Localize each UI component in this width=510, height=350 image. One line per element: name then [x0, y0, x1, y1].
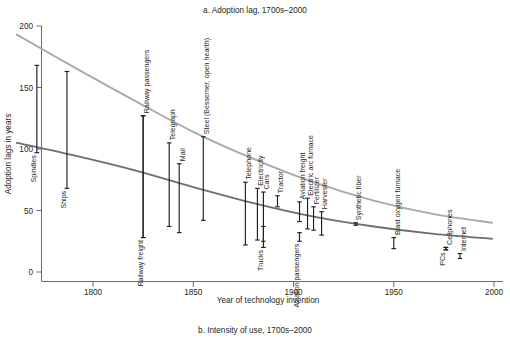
- data-point-label: Trucks: [257, 249, 265, 270]
- data-point-label: Internet: [460, 227, 468, 251]
- data-point: Harvester: [319, 178, 329, 235]
- data-point-label: Cellphones: [446, 209, 454, 245]
- data-point-label: Harvester: [321, 178, 329, 209]
- data-point: Mail: [177, 148, 187, 233]
- data-point-label: Spindles: [30, 155, 38, 183]
- data-point-label: Mail: [179, 148, 187, 161]
- x-tick-label: 1850: [184, 288, 203, 297]
- data-point: Fertilizer: [311, 176, 321, 230]
- data-point: Telegraph: [167, 109, 177, 226]
- data-point-label: Ships: [60, 190, 68, 208]
- data-point-label: Telephone: [245, 147, 253, 180]
- figure-container: a. Adoption lag, 1700s–2000 050100150200…: [0, 0, 510, 350]
- data-point-label: Cars: [263, 174, 271, 189]
- x-tick-label: 1800: [84, 288, 103, 297]
- x-tick-label: 1950: [385, 288, 404, 297]
- data-point: Blast oxygen furnace: [391, 169, 401, 249]
- data-point-label: PCs: [439, 252, 447, 266]
- y-tick-label: 150: [19, 84, 33, 93]
- data-point-label: Aviation freight: [299, 153, 307, 200]
- y-tick-label: 0: [28, 268, 33, 277]
- data-point: Telephone: [243, 147, 253, 245]
- data-point-label: Steel (Bessemer, open hearth): [203, 38, 211, 134]
- trend-line-lower: [17, 143, 492, 239]
- y-axis-ticks: 050100150200: [19, 22, 41, 277]
- data-point-label: Blast oxygen furnace: [394, 169, 402, 235]
- data-point-label: Tractor: [277, 170, 285, 193]
- data-point: Synthetic fiber: [353, 175, 363, 226]
- data-point-label: Railway freight: [137, 240, 145, 287]
- data-point-label: Synthetic fiber: [355, 175, 363, 221]
- data-point: Trucks: [257, 226, 266, 270]
- data-point: Steel (Bessemer, open hearth): [201, 38, 211, 220]
- trend-line-upper: [17, 35, 492, 223]
- figure-caption: b. Intensity of use, 1700s–2000: [198, 326, 312, 335]
- data-point: Railway passengers: [141, 49, 151, 237]
- data-point: Railway freight: [137, 116, 146, 287]
- chart-svg: a. Adoption lag, 1700s–2000 050100150200…: [0, 0, 510, 350]
- x-axis-title: Year of technology invention: [217, 296, 320, 305]
- x-tick-label: 2000: [485, 288, 504, 297]
- y-axis-title: Adoption lags in years: [4, 114, 13, 195]
- y-tick-label: 200: [19, 22, 33, 31]
- data-point: Tractor: [275, 170, 285, 206]
- data-point-label: Telegraph: [169, 109, 177, 140]
- chart-title: a. Adoption lag, 1700s–2000: [203, 6, 307, 15]
- data-point: Internet: [458, 227, 468, 259]
- data-point: Ships: [60, 72, 69, 209]
- data-point: Cellphones: [444, 209, 454, 250]
- data-point: Aviation freight: [297, 153, 307, 222]
- y-tick-label: 50: [24, 207, 34, 216]
- data-point-label: Fertilizer: [313, 176, 321, 204]
- data-point-label: Railway passengers: [143, 49, 151, 113]
